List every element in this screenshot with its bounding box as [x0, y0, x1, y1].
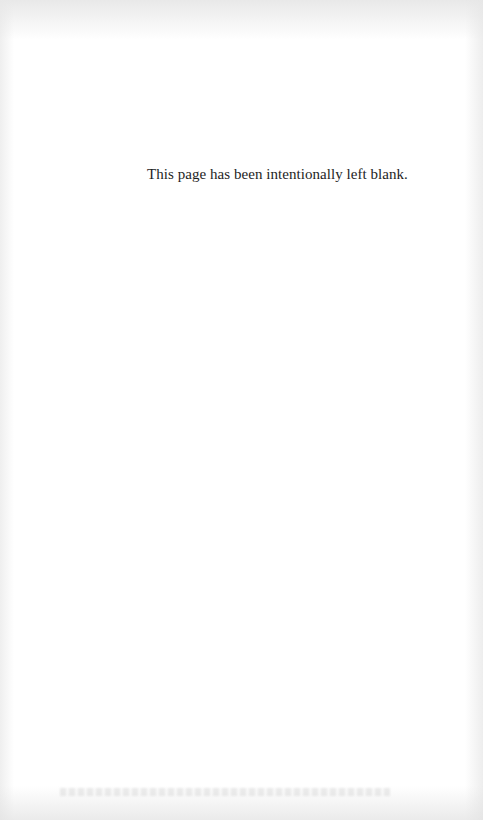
- scan-shading-right: [465, 0, 483, 820]
- blank-page: This page has been intentionally left bl…: [0, 0, 483, 820]
- scan-shading-top: [0, 0, 483, 40]
- blank-page-notice: This page has been intentionally left bl…: [147, 164, 408, 184]
- bleed-through-text: [60, 788, 390, 796]
- scan-shading-left: [0, 0, 14, 820]
